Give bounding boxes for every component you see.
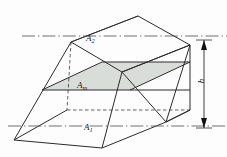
label-bottom-area-subscript: 1 [90,126,93,133]
geometry-figure: A2 Am A1 h [0,0,227,157]
label-mid-area: Am [77,80,87,90]
label-mid-area-subscript: m [83,84,88,91]
prismatoid-drawing [0,0,227,157]
label-height: h [196,79,206,84]
label-bottom-area: A1 [84,122,93,132]
label-bottom-area-letter: A [84,122,90,132]
label-top-area-subscript: 2 [92,37,95,44]
label-top-area-letter: A [86,33,92,43]
label-top-area: A2 [86,33,95,43]
label-mid-area-letter: A [77,80,83,90]
